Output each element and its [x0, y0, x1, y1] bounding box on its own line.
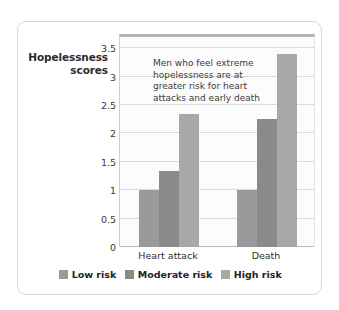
legend-item: Low risk [59, 269, 116, 280]
legend-label: High risk [234, 269, 282, 280]
legend-label: Low risk [72, 269, 117, 280]
legend-item: High risk [221, 269, 282, 280]
y-tick-label: 1.5 [78, 156, 116, 167]
legend-label: Moderate risk [138, 269, 213, 280]
x-category-label: Heart attack [138, 250, 197, 261]
annotation-line-3: greater risk for heart [153, 81, 283, 93]
y-tick-label: 1 [78, 185, 116, 196]
annotation-line-2: hopelessness are at [153, 70, 283, 82]
bar [179, 114, 199, 247]
bar [139, 190, 159, 247]
annotation-line-4: attacks and early death [153, 93, 283, 105]
bar [237, 190, 257, 247]
x-axis-category-labels: Heart attackDeath [119, 250, 315, 264]
annotation-line-1: Men who feel extreme [153, 58, 283, 70]
y-tick-label: 0 [78, 242, 116, 253]
x-category-label: Death [252, 250, 281, 261]
y-tick-label: 2.5 [78, 100, 116, 111]
y-tick-label: 3.5 [78, 43, 116, 54]
legend-swatch-icon [125, 270, 134, 279]
bar [257, 119, 277, 247]
legend-swatch-icon [59, 270, 68, 279]
y-tick-label: 2 [78, 128, 116, 139]
chart-card: Hopelessness scores 00.511.522.533.5 Men… [17, 21, 322, 295]
y-tick-label: 3 [78, 71, 116, 82]
y-axis-tick-labels: 00.511.522.533.5 [78, 34, 116, 247]
legend-swatch-icon [221, 270, 230, 279]
plot-area: Men who feel extreme hopelessness are at… [119, 34, 315, 247]
chart-annotation: Men who feel extreme hopelessness are at… [153, 58, 283, 104]
legend-item: Moderate risk [125, 269, 212, 280]
y-tick-label: 0.5 [78, 213, 116, 224]
bar [159, 171, 179, 247]
chart-legend: Low riskModerate riskHigh risk [18, 269, 322, 280]
